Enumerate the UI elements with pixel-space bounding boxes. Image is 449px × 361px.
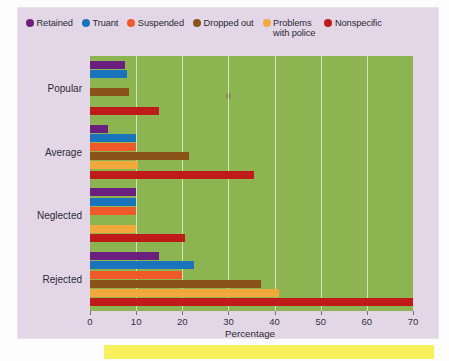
bar-popular-retained xyxy=(90,61,125,69)
bar-rejected-dropped-out xyxy=(90,280,261,288)
bar-group-rejected xyxy=(90,247,413,311)
y-category-label-popular: Popular xyxy=(48,82,82,93)
legend-item-retained: Retained xyxy=(26,18,73,28)
bar-group-popular xyxy=(90,56,413,120)
x-tick-30 xyxy=(228,311,229,315)
y-axis-category-labels: PopularAverageNeglectedRejected xyxy=(18,56,86,311)
x-axis-title: Percentage xyxy=(18,328,438,339)
y-category-label-rejected: Rejected xyxy=(43,274,82,285)
bar-rejected-suspended xyxy=(90,271,182,279)
y-category-label-neglected: Neglected xyxy=(37,210,82,221)
legend-dot-icon xyxy=(263,19,271,27)
legend-dot-icon xyxy=(82,19,90,27)
x-tick-label-20: 20 xyxy=(177,316,188,327)
legend-item-label: Problems with police xyxy=(273,18,315,38)
x-tick-label-30: 30 xyxy=(223,316,234,327)
bar-rejected-truant xyxy=(90,261,194,269)
chart-legend: RetainedTruantSuspendedDropped outProble… xyxy=(26,18,430,54)
bar-popular-truant xyxy=(90,70,127,78)
x-tick-label-40: 40 xyxy=(269,316,280,327)
legend-item-nonspecific: Nonspecific xyxy=(324,18,381,28)
legend-item-label: Dropped out xyxy=(204,18,254,28)
bar-average-dropped-out xyxy=(90,152,189,160)
bar-neglected-truant xyxy=(90,198,136,206)
x-tick-10 xyxy=(136,311,137,315)
legend-dot-icon xyxy=(26,19,34,27)
legend-dot-icon xyxy=(127,19,135,27)
chart-figure-panel: RetainedTruantSuspendedDropped outProble… xyxy=(18,8,438,338)
bar-group-average xyxy=(90,120,413,184)
legend-item-truant: Truant xyxy=(82,18,118,28)
legend-item-dropped-out: Dropped out xyxy=(193,18,254,28)
x-tick-0 xyxy=(90,311,91,315)
y-category-label-average: Average xyxy=(45,146,82,157)
legend-item-label: Truant xyxy=(92,18,118,28)
bar-neglected-suspended xyxy=(90,207,136,215)
bar-average-suspended xyxy=(90,143,136,151)
bar-rejected-problems-with-police xyxy=(90,289,279,297)
bar-average-problems-with-police xyxy=(90,161,138,169)
x-tick-label-10: 10 xyxy=(131,316,142,327)
highlighter-mark xyxy=(104,345,434,359)
bar-rejected-nonspecific xyxy=(90,298,413,306)
x-tick-40 xyxy=(275,311,276,315)
x-tick-50 xyxy=(321,311,322,315)
x-tick-70 xyxy=(413,311,414,315)
x-tick-60 xyxy=(367,311,368,315)
bar-average-truant xyxy=(90,134,136,142)
legend-dot-icon xyxy=(324,19,332,27)
bar-neglected-retained xyxy=(90,188,136,196)
bar-rejected-retained xyxy=(90,252,159,260)
legend-item-suspended: Suspended xyxy=(127,18,184,28)
scanned-page: RetainedTruantSuspendedDropped outProble… xyxy=(0,0,449,361)
x-tick-20 xyxy=(182,311,183,315)
legend-item-label: Suspended xyxy=(138,18,184,28)
legend-item-problems: Problems with police xyxy=(263,18,316,38)
bar-popular-nonspecific xyxy=(90,107,159,115)
plot-area xyxy=(90,56,413,311)
legend-item-label: Nonspecific xyxy=(335,18,382,28)
bar-average-retained xyxy=(90,125,108,133)
bar-popular-dropped-out xyxy=(90,88,129,96)
x-tick-label-50: 50 xyxy=(315,316,326,327)
x-tick-label-0: 0 xyxy=(87,316,92,327)
x-tick-label-60: 60 xyxy=(362,316,373,327)
bar-average-nonspecific xyxy=(90,171,254,179)
x-tick-label-70: 70 xyxy=(408,316,419,327)
x-axis-title-text: Percentage xyxy=(225,328,275,339)
bar-neglected-nonspecific xyxy=(90,234,185,242)
bar-neglected-problems-with-police xyxy=(90,225,136,233)
bar-group-neglected xyxy=(90,184,413,248)
legend-dot-icon xyxy=(193,19,201,27)
legend-item-label: Retained xyxy=(37,18,73,28)
